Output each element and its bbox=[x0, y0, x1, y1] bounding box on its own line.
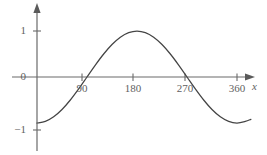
x-tick-label-180: 180 bbox=[119, 83, 147, 94]
x-axis-label: x bbox=[252, 81, 257, 92]
y-axis-arrow-icon bbox=[33, 3, 40, 13]
x-tick-label-360: 360 bbox=[223, 83, 251, 94]
plot-area bbox=[0, 0, 267, 155]
cosine-graph-figure: 1 0 −1 90 180 270 360 x bbox=[0, 0, 267, 155]
y-tick-label-0: 0 bbox=[6, 71, 26, 82]
y-tick-label-1: 1 bbox=[6, 25, 26, 36]
x-tick-label-90: 90 bbox=[70, 83, 94, 94]
y-tick-label-minus-1: −1 bbox=[2, 124, 26, 135]
x-tick-label-270: 270 bbox=[171, 83, 199, 94]
